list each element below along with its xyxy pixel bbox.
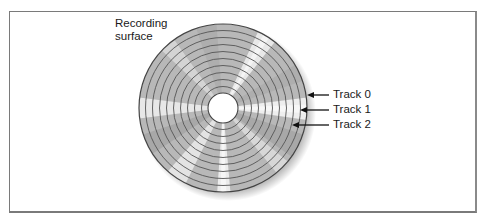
recording-surface-label: Recording surface — [115, 17, 167, 43]
track-2-label: Track 2 — [333, 118, 371, 131]
spindle-hole — [208, 93, 238, 123]
recording-surface-label-line2: surface — [115, 30, 167, 43]
track-1-label: Track 1 — [333, 103, 371, 116]
track-0-label: Track 0 — [333, 88, 371, 101]
recording-surface-label-line1: Recording — [115, 17, 167, 30]
disk-diagram — [0, 0, 487, 223]
